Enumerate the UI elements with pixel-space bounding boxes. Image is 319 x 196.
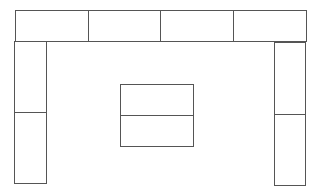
right-column-cell-1 <box>274 42 306 115</box>
left-column-cell-1 <box>14 41 47 113</box>
top-row-cell-4 <box>233 10 307 42</box>
center-block-cell-1 <box>120 84 194 116</box>
right-column-cell-2 <box>274 114 306 186</box>
center-block-cell-2 <box>120 115 194 147</box>
top-row-cell-3 <box>160 10 234 42</box>
left-column-cell-2 <box>14 112 47 184</box>
top-row-cell-2 <box>88 10 161 42</box>
top-row-cell-1 <box>15 10 89 42</box>
